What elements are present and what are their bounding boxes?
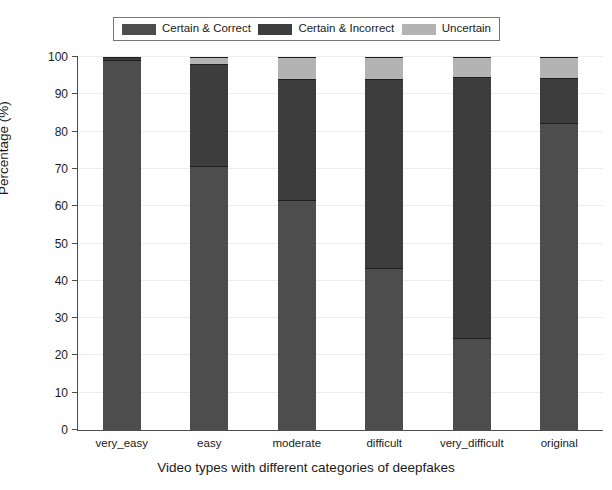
y-axis-tick-label: 0 [28,424,68,436]
y-axis-tick [72,93,78,94]
y-axis-tick-label: 30 [28,312,68,324]
bar-very_easy[interactable] [103,57,141,430]
gridline [78,93,603,94]
y-axis-title: Percentage (%) [0,101,11,195]
bar-segment[interactable] [103,57,141,60]
y-axis-tick [72,280,78,281]
bar-segment[interactable] [365,79,403,268]
legend-label-certain-incorrect: Certain & Incorrect [298,23,394,35]
legend-label-uncertain: Uncertain [442,23,491,35]
bar-original[interactable] [540,57,578,430]
y-axis-tick [72,392,78,393]
chart-legend: Certain & Correct Certain & Incorrect Un… [113,17,500,41]
y-axis-tick [72,56,78,57]
gridline [78,56,603,57]
bar-segment[interactable] [540,78,578,123]
y-axis-tick-label: 90 [28,88,68,100]
gridline [78,131,603,132]
bar-segment[interactable] [365,268,403,430]
legend-entry-certain-incorrect: Certain & Incorrect [258,23,394,35]
legend-swatch-uncertain [402,24,436,35]
gridline [78,392,603,393]
gridline [78,317,603,318]
bar-segment[interactable] [540,123,578,430]
legend-swatch-certain-incorrect [258,24,292,35]
bar-segment[interactable] [365,57,403,79]
bar-segment[interactable] [190,64,228,166]
y-axis-tick-label: 10 [28,387,68,399]
bar-easy[interactable] [190,57,228,430]
y-axis-tick [72,243,78,244]
y-axis-tick-label: 40 [28,275,68,287]
bar-segment[interactable] [190,166,228,430]
bar-moderate[interactable] [278,57,316,430]
y-axis-tick [72,317,78,318]
gridline [78,354,603,355]
y-axis-tick-label: 100 [28,51,68,63]
gridline [78,243,603,244]
bar-segment[interactable] [453,57,491,77]
bar-segment[interactable] [190,57,228,64]
legend-entry-uncertain: Uncertain [402,23,491,35]
y-axis-tick [72,354,78,355]
bar-very_difficult[interactable] [453,57,491,430]
plot-area: very_easyeasymoderatedifficultvery_diffi… [77,57,603,431]
gridline [78,168,603,169]
legend-swatch-certain-correct [122,24,156,35]
x-axis-tick-label-original: original [494,438,612,450]
bar-segment[interactable] [453,338,491,430]
gridline [78,205,603,206]
gridline [78,280,603,281]
y-axis-tick-label: 80 [28,126,68,138]
bar-segment[interactable] [278,200,316,431]
bar-segment[interactable] [540,57,578,78]
bar-segment[interactable] [278,79,316,200]
chart-figure: Certain & Correct Certain & Incorrect Un… [0,0,612,490]
y-axis-tick [72,205,78,206]
y-axis-tick [72,131,78,132]
bar-segment[interactable] [453,77,491,338]
bar-segment[interactable] [103,60,141,430]
bar-segment[interactable] [278,57,316,79]
legend-entry-certain-correct: Certain & Correct [122,23,251,35]
y-axis-tick-label: 70 [28,163,68,175]
legend-label-certain-correct: Certain & Correct [162,23,251,35]
y-axis-tick [72,429,78,430]
y-axis-tick-label: 50 [28,238,68,250]
y-axis-tick [72,168,78,169]
y-axis-tick-label: 20 [28,349,68,361]
x-axis-title: Video types with different categories of… [0,460,612,475]
bar-difficult[interactable] [365,57,403,430]
y-axis-tick-label: 60 [28,200,68,212]
